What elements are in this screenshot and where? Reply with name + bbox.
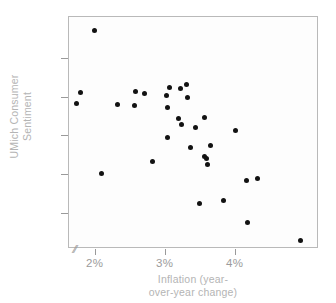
data-point	[197, 201, 202, 206]
y-axis-title-line: UMich Consumer	[8, 57, 21, 177]
plot-area	[69, 17, 317, 247]
data-point	[204, 156, 209, 161]
y-tick-mark	[61, 58, 68, 59]
data-point	[202, 115, 207, 120]
data-point	[184, 82, 189, 87]
y-tick-mark	[61, 135, 68, 136]
data-point	[164, 93, 169, 98]
data-point	[205, 162, 210, 167]
data-point	[99, 171, 104, 176]
data-point	[298, 238, 303, 243]
data-point	[221, 198, 226, 203]
data-point	[233, 128, 238, 133]
x-tick-mark	[95, 249, 96, 255]
data-point	[165, 105, 170, 110]
plot-frame	[68, 16, 318, 248]
x-axis-title-line: Inflation (year-	[68, 273, 318, 286]
data-point	[133, 89, 138, 94]
data-point	[208, 143, 213, 148]
data-point	[167, 85, 172, 90]
data-point	[188, 145, 193, 150]
data-point	[142, 91, 147, 96]
x-tick-mark	[235, 249, 236, 255]
y-axis-title: UMich ConsumerSentiment	[8, 57, 33, 177]
data-point	[132, 103, 137, 108]
x-tick-label: 2%	[73, 257, 117, 269]
data-point	[178, 86, 183, 91]
data-point	[193, 125, 198, 130]
data-point	[245, 220, 250, 225]
data-point	[244, 178, 249, 183]
data-point	[179, 122, 184, 127]
y-tick-mark	[61, 213, 68, 214]
x-axis-title: Inflation (year-over-year change)	[68, 273, 318, 299]
data-point	[92, 28, 97, 33]
data-point	[255, 176, 260, 181]
y-tick-mark	[61, 174, 68, 175]
x-tick-mark	[165, 249, 166, 255]
scatter-chart: UMich ConsumerSentiment 10095908580 2%3%…	[0, 0, 336, 303]
data-point	[115, 102, 120, 107]
data-point	[165, 135, 170, 140]
data-point	[150, 159, 155, 164]
x-tick-label: 4%	[213, 257, 257, 269]
y-axis-title-line: Sentiment	[20, 57, 33, 177]
data-point	[78, 90, 83, 95]
data-point	[74, 101, 79, 106]
data-point	[185, 95, 190, 100]
x-axis-title-line: over-year change)	[68, 286, 318, 299]
y-tick-mark	[61, 97, 68, 98]
data-point	[176, 116, 181, 121]
x-tick-label: 3%	[143, 257, 187, 269]
